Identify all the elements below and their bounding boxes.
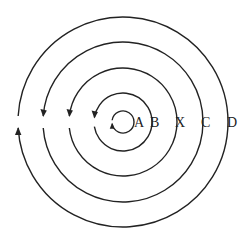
arrow-down-icon [40,109,46,117]
ring-label-x: X [175,115,185,130]
ring-x [69,68,177,176]
arrow-up-icon [15,127,21,135]
ring-label-d: D [227,115,237,130]
ring-label-c: C [201,115,210,130]
arrow-up-icon [110,123,115,129]
arrow-down-icon [92,110,98,118]
ring-a [112,111,134,133]
labels-group: A B X C D [134,115,237,130]
ring-label-b: B [150,115,159,130]
arrow-down-icon [67,109,73,117]
ring-d [18,17,228,227]
concentric-rings-diagram: A B X C D [0,0,251,239]
ring-label-a: A [134,115,145,130]
rings-group [15,17,228,227]
